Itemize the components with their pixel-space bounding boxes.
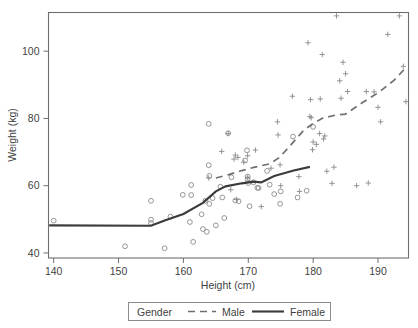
y-tick-label: 80 [28, 112, 40, 124]
x-tick-label: 190 [369, 265, 387, 277]
x-tick-label: 180 [304, 265, 322, 277]
x-tick-label: 160 [175, 265, 193, 277]
x-axis-title: Height (cm) [201, 279, 255, 291]
legend-label-female: Female [290, 306, 325, 318]
x-tick-label: 150 [110, 265, 128, 277]
legend-title: Gender [137, 306, 173, 318]
legend-label-male: Male [222, 306, 245, 318]
x-tick-label: 170 [240, 265, 258, 277]
x-tick-label: 140 [45, 265, 63, 277]
y-tick-label: 60 [28, 179, 40, 191]
y-tick-label: 40 [28, 247, 40, 259]
y-axis-title: Weight (kg) [6, 108, 18, 162]
y-tick-label: 100 [22, 45, 40, 57]
plot-canvas: 140150160170180190 406080100 Height (cm)… [0, 0, 418, 328]
scatter-plot-chart: 140150160170180190 406080100 Height (cm)… [0, 0, 418, 328]
